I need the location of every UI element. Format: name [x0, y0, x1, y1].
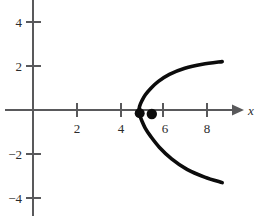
vertex-point	[135, 108, 145, 118]
parabola-upper-branch	[139, 62, 222, 110]
x-tick-label-2: 2	[74, 121, 81, 136]
y-tick-label-neg4: −4	[8, 191, 22, 206]
y-tick-label-2: 2	[16, 59, 23, 74]
y-tick-label-neg2: −2	[8, 147, 22, 162]
x-tick-label-8: 8	[204, 121, 211, 136]
graph-canvas: 2 4 6 8 4 2 −2 −4 x	[0, 0, 271, 223]
x-tick-label-4: 4	[118, 121, 125, 136]
x-axis-arrow-icon	[232, 105, 244, 116]
parabola-figure: 2 4 6 8 4 2 −2 −4 x	[0, 0, 271, 223]
x-axis-label: x	[247, 103, 254, 118]
focus-point	[147, 109, 157, 119]
y-tick-label-4: 4	[16, 15, 23, 30]
x-tick-label-6: 6	[162, 121, 169, 136]
